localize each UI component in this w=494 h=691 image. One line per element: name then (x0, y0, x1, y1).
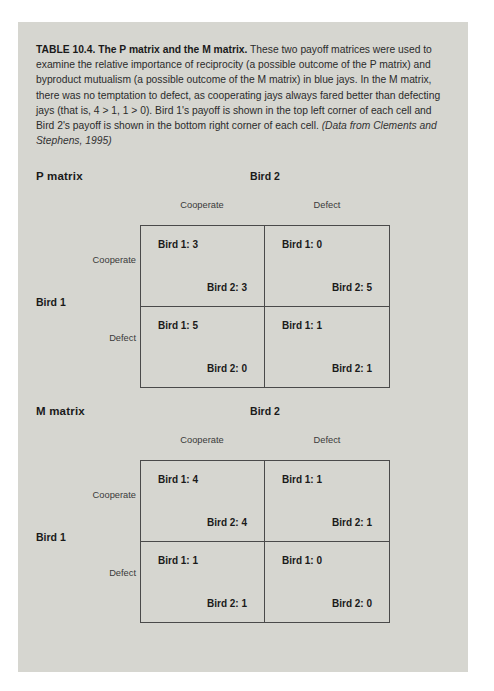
p-matrix-col-header-defect: Defect (265, 200, 389, 210)
m-matrix-column-player-label: Bird 2 (140, 405, 390, 417)
m-matrix-col-header-cooperate: Cooperate (140, 435, 264, 445)
p-matrix-cell-cooperate-defect: Bird 1: 0 Bird 2: 5 (265, 226, 389, 307)
table-caption: TABLE 10.4. The P matrix and the M matri… (36, 42, 450, 148)
p-matrix-title: P matrix (36, 170, 83, 182)
payoff-bird1: Bird 1: 1 (282, 474, 322, 485)
p-matrix-row-player-label: Bird 1 (36, 296, 66, 308)
p-matrix-cell-defect-cooperate: Bird 1: 5 Bird 2: 0 (141, 307, 265, 388)
p-matrix-column-player-label: Bird 2 (140, 170, 390, 182)
m-matrix-row-player-label: Bird 1 (36, 531, 66, 543)
payoff-bird1: Bird 1: 0 (282, 555, 322, 566)
payoff-bird2: Bird 2: 1 (332, 363, 372, 374)
m-matrix-cell-cooperate-cooperate: Bird 1: 4 Bird 2: 4 (141, 461, 265, 542)
payoff-bird2: Bird 2: 5 (332, 282, 372, 293)
p-matrix-row-header-cooperate: Cooperate (54, 255, 136, 265)
table-caption-lead: TABLE 10.4. The P matrix and the M matri… (36, 44, 247, 55)
table-figure-card: TABLE 10.4. The P matrix and the M matri… (18, 22, 468, 672)
payoff-bird2: Bird 2: 4 (207, 517, 247, 528)
payoff-bird1: Bird 1: 0 (282, 239, 322, 250)
m-matrix-row-header-cooperate: Cooperate (54, 490, 136, 500)
m-matrix-row-header-defect: Defect (54, 568, 136, 578)
m-matrix-cell-cooperate-defect: Bird 1: 1 Bird 2: 1 (265, 461, 389, 542)
m-matrix-grid: Bird 1: 4 Bird 2: 4 Bird 1: 1 Bird 2: 1 … (140, 460, 390, 623)
payoff-bird2: Bird 2: 1 (207, 598, 247, 609)
payoff-bird2: Bird 2: 0 (332, 598, 372, 609)
payoff-bird2: Bird 2: 0 (207, 363, 247, 374)
payoff-bird1: Bird 1: 3 (158, 239, 198, 250)
m-matrix-col-header-defect: Defect (265, 435, 389, 445)
payoff-bird1: Bird 1: 1 (282, 320, 322, 331)
p-matrix-cell-defect-defect: Bird 1: 1 Bird 2: 1 (265, 307, 389, 388)
p-matrix-col-header-cooperate: Cooperate (140, 200, 264, 210)
payoff-bird1: Bird 1: 1 (158, 555, 198, 566)
m-matrix-cell-defect-defect: Bird 1: 0 Bird 2: 0 (265, 542, 389, 623)
payoff-bird1: Bird 1: 5 (158, 320, 198, 331)
payoff-bird2: Bird 2: 3 (207, 282, 247, 293)
table-caption-body: These two payoff matrices were used to e… (36, 44, 440, 131)
p-matrix-grid: Bird 1: 3 Bird 2: 3 Bird 1: 0 Bird 2: 5 … (140, 225, 390, 388)
m-matrix-cell-defect-cooperate: Bird 1: 1 Bird 2: 1 (141, 542, 265, 623)
p-matrix-row-header-defect: Defect (54, 333, 136, 343)
payoff-bird1: Bird 1: 4 (158, 474, 198, 485)
m-matrix-title: M matrix (36, 405, 85, 417)
payoff-bird2: Bird 2: 1 (332, 517, 372, 528)
p-matrix-cell-cooperate-cooperate: Bird 1: 3 Bird 2: 3 (141, 226, 265, 307)
